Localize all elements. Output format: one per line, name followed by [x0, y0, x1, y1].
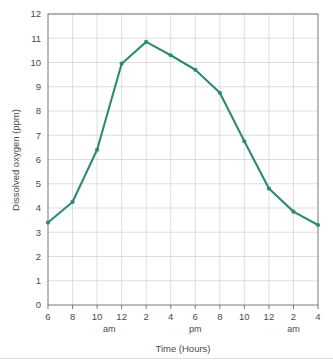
data-point-marker	[169, 53, 173, 57]
data-point-marker	[120, 62, 124, 66]
x-axis-tick-label: 10	[92, 311, 103, 322]
chart-figure: 0123456789101112 6810122468101224 ampmam…	[0, 0, 333, 361]
y-axis-tick-label: 7	[36, 130, 41, 141]
y-axis-tick-label: 11	[31, 33, 41, 44]
y-axis-tick-label: 3	[36, 227, 41, 238]
y-axis-tick-label: 2	[36, 251, 41, 262]
x-axis-tick-label: 6	[193, 311, 198, 322]
data-point-marker	[95, 148, 99, 152]
y-axis-tick-label: 1	[36, 275, 41, 286]
data-point-marker	[70, 200, 74, 204]
x-axis-meridiem-label: am	[287, 324, 300, 334]
x-axis-meridiem-label: pm	[189, 324, 202, 334]
y-axis-title: Dissolved oxygen (ppm)	[10, 109, 21, 211]
x-axis-meridiem-label: am	[103, 324, 116, 334]
x-axis-tick-label: 2	[291, 311, 296, 322]
y-axis-tick-label: 4	[36, 202, 41, 213]
dissolved-oxygen-line-chart: 0123456789101112 6810122468101224 ampmam…	[0, 0, 333, 361]
x-axis-tick-label: 12	[264, 311, 275, 322]
y-axis-tick-label: 8	[36, 105, 41, 116]
x-axis-tick-label: 8	[217, 311, 222, 322]
footer-divider	[0, 358, 333, 359]
x-axis-tick-label: 8	[70, 311, 75, 322]
data-point-marker	[242, 139, 246, 143]
chart-background	[0, 0, 333, 361]
data-point-marker	[267, 187, 271, 191]
x-axis-tick-label: 10	[239, 311, 250, 322]
y-axis-tick-label: 9	[36, 81, 41, 92]
data-point-marker	[144, 40, 148, 44]
y-axis-tick-label: 5	[36, 178, 41, 189]
x-axis-tick-label: 4	[315, 311, 320, 322]
data-point-marker	[193, 68, 197, 72]
x-axis-tick-label: 4	[168, 311, 173, 322]
y-axis-tick-label: 10	[30, 57, 41, 68]
x-axis-tick-label: 12	[116, 311, 127, 322]
data-point-marker	[316, 223, 320, 227]
data-point-marker	[291, 210, 295, 214]
x-axis-tick-label: 6	[45, 311, 50, 322]
y-axis-tick-label: 0	[36, 299, 41, 310]
x-axis-title: Time (Hours)	[155, 343, 210, 354]
x-axis-tick-label: 2	[144, 311, 149, 322]
data-point-marker	[218, 91, 222, 95]
y-axis-tick-label: 12	[30, 8, 41, 19]
y-axis-tick-label: 6	[36, 154, 41, 165]
data-point-marker	[46, 220, 50, 224]
